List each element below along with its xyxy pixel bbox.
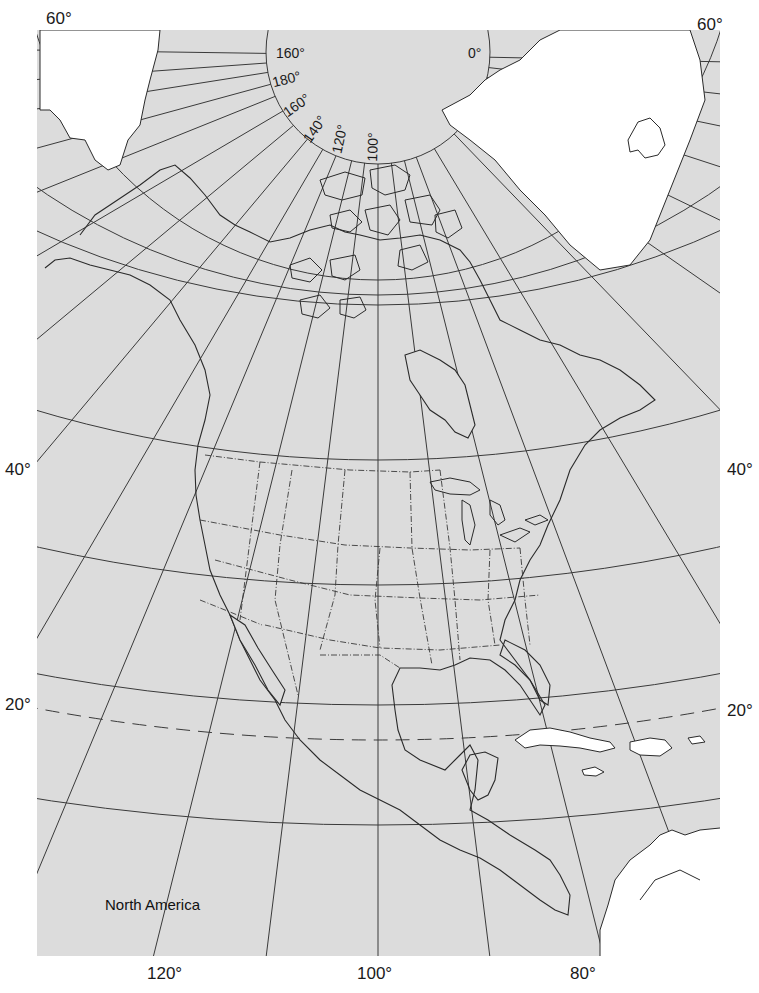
lat-label-60-right: 60° — [697, 16, 723, 33]
lat-label-60-left: 60° — [46, 10, 72, 27]
lat-label-40-right: 40° — [727, 461, 753, 478]
jamaica — [582, 767, 604, 776]
map-frame: North America — [37, 30, 720, 956]
lon-label-100: 100° — [357, 965, 392, 982]
cuba — [515, 728, 615, 752]
south-america — [600, 828, 720, 956]
siberia-chukotka — [40, 30, 160, 170]
polar-label-100: 100° — [365, 132, 380, 161]
lon-label-120: 120° — [147, 965, 182, 982]
puerto-rico — [688, 736, 705, 744]
map-graphic — [37, 30, 720, 956]
caribbean-islands — [515, 728, 705, 776]
lat-label-20-left: 20° — [5, 696, 31, 713]
lat-label-20-right: 20° — [727, 702, 753, 719]
polar-label-160-upper: 160° — [276, 46, 305, 60]
map-title: North America — [105, 896, 200, 913]
lat-label-40-left: 40° — [5, 461, 31, 478]
great-lakes — [430, 478, 548, 545]
hispaniola — [630, 738, 672, 756]
polar-label-0: 0° — [468, 46, 481, 60]
lon-label-80: 80° — [570, 965, 596, 982]
